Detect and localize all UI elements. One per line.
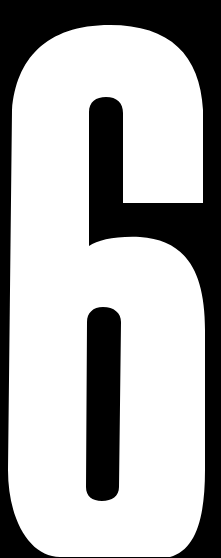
numeral-canvas: 6 bbox=[0, 0, 221, 558]
numeral-six-glyph bbox=[0, 0, 221, 558]
